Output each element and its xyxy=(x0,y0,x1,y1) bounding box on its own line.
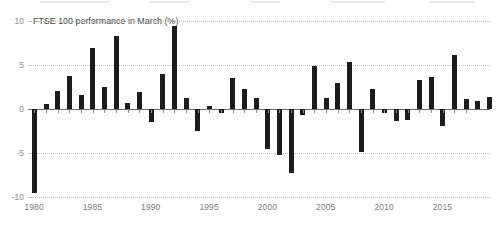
x-axis-tick xyxy=(34,110,35,113)
gridline xyxy=(28,65,490,66)
x-axis-tick xyxy=(256,110,257,113)
x-axis-tick xyxy=(279,110,280,113)
bar xyxy=(289,109,294,173)
x-axis-tick xyxy=(221,110,222,113)
bar xyxy=(90,48,95,109)
bar xyxy=(44,104,49,109)
bar xyxy=(359,109,364,152)
y-axis-tick-label: -5 xyxy=(2,149,24,158)
bar xyxy=(347,62,352,109)
bar xyxy=(172,26,177,109)
x-axis-tick xyxy=(419,110,420,113)
x-axis-tick xyxy=(116,110,117,113)
y-axis-tick-label: 10 xyxy=(2,17,24,26)
x-axis-tick xyxy=(384,110,385,113)
x-axis-tick xyxy=(69,110,70,113)
x-axis-tick xyxy=(431,110,432,113)
bar xyxy=(102,87,107,109)
x-axis-tick xyxy=(466,110,467,113)
x-axis-tick xyxy=(209,110,210,113)
x-axis-tick-label: 1990 xyxy=(141,203,160,212)
bar xyxy=(137,92,142,109)
x-axis-tick xyxy=(151,110,152,113)
bar xyxy=(230,78,235,109)
x-axis-tick xyxy=(104,110,105,113)
chart-container: FTSE 100 performance in March (%) 1050-5… xyxy=(0,0,497,230)
x-axis-tick xyxy=(326,110,327,113)
x-axis-tick-label: 1980 xyxy=(24,203,43,212)
y-axis-tick-label: -10 xyxy=(2,193,24,202)
x-axis-tick-label: 1995 xyxy=(199,203,218,212)
gridline xyxy=(28,197,490,198)
bar xyxy=(242,89,247,109)
x-axis-tick xyxy=(338,110,339,113)
x-axis-tick xyxy=(396,110,397,113)
x-axis-tick xyxy=(373,110,374,113)
x-axis-tick xyxy=(244,110,245,113)
bar xyxy=(67,76,72,109)
x-axis-tick xyxy=(291,110,292,113)
x-axis-tick xyxy=(81,110,82,113)
bar xyxy=(417,80,422,109)
bar xyxy=(184,98,189,109)
x-axis-tick xyxy=(268,110,269,113)
gridline xyxy=(28,21,490,22)
x-axis-tick xyxy=(303,110,304,113)
x-axis-tick xyxy=(174,110,175,113)
x-axis-tick xyxy=(163,110,164,113)
bar xyxy=(452,55,457,109)
bar xyxy=(277,109,282,155)
bar xyxy=(429,77,434,109)
zero-axis-line xyxy=(28,109,490,110)
bar xyxy=(464,99,469,109)
x-axis-tick xyxy=(361,110,362,113)
bar xyxy=(487,97,492,109)
bar xyxy=(32,109,37,193)
bar xyxy=(55,91,60,109)
x-axis-tick-label: 2005 xyxy=(316,203,335,212)
x-axis-tick xyxy=(93,110,94,113)
x-axis-tick xyxy=(454,110,455,113)
x-axis-tick xyxy=(128,110,129,113)
gridline xyxy=(28,153,490,154)
x-axis-tick xyxy=(58,110,59,113)
x-axis-tick xyxy=(408,110,409,113)
bar xyxy=(125,103,130,109)
bar xyxy=(324,98,329,109)
y-axis-tick-label: 0 xyxy=(2,105,24,114)
bar xyxy=(312,66,317,109)
bar xyxy=(207,106,212,109)
x-axis-tick-label: 2000 xyxy=(258,203,277,212)
bar xyxy=(254,98,259,109)
x-axis-tick xyxy=(186,110,187,113)
x-axis-tick xyxy=(443,110,444,113)
x-axis-tick-label: 2015 xyxy=(433,203,452,212)
bar xyxy=(160,74,165,109)
x-axis-tick-label: 2010 xyxy=(374,203,393,212)
x-axis-tick xyxy=(46,110,47,113)
bar xyxy=(370,89,375,109)
bar xyxy=(114,36,119,109)
x-axis-tick xyxy=(314,110,315,113)
bar xyxy=(265,109,270,149)
bar xyxy=(335,83,340,109)
plot-area xyxy=(28,21,490,197)
x-axis-tick-label: 1985 xyxy=(83,203,102,212)
x-axis-tick xyxy=(349,110,350,113)
y-axis-tick-label: 5 xyxy=(2,61,24,70)
bar xyxy=(79,95,84,109)
x-axis-tick xyxy=(233,110,234,113)
x-axis-tick xyxy=(139,110,140,113)
bar xyxy=(475,101,480,109)
x-axis-tick xyxy=(198,110,199,113)
